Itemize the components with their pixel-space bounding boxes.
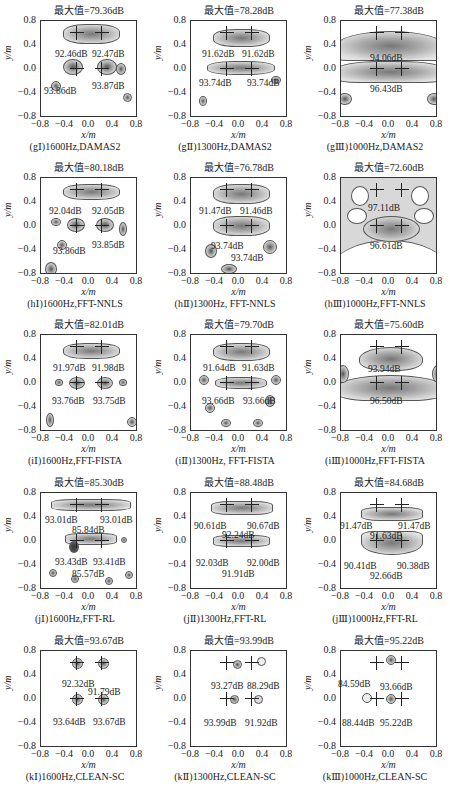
x-axis-label: x/m (340, 443, 437, 454)
ytick: −0.4 (156, 559, 186, 569)
ytick: −0.4 (306, 87, 336, 97)
peak-label: 84.59dB (338, 679, 370, 689)
panel-title: 最大值=93.67dB (40, 632, 138, 647)
xtick: 0.8 (421, 276, 450, 286)
xtick: 0.8 (271, 119, 301, 129)
y-axis-label: y/m (2, 518, 13, 532)
ytick: 0.0 (156, 63, 186, 73)
panel-caption: (jⅡ)1300Hz,FFT-RL (150, 613, 300, 624)
peak-label: 91.97dB (53, 363, 85, 373)
true-source-marker (70, 219, 84, 233)
ytick: 0.0 (306, 377, 336, 387)
panel-title: 最大值=85.30dB (40, 474, 138, 489)
peak-label: 96.61dB (370, 241, 402, 251)
peak-label: 91.92dB (245, 718, 277, 728)
peak-label: 93.74dB (231, 253, 263, 263)
peak-label: 93.87dB (92, 81, 124, 91)
true-source-marker (245, 183, 259, 197)
panel-gII: 最大值=78.28dB 91.62dB 91.62dB 93.74dB 93.7… (150, 0, 300, 157)
sidelobe-blob (432, 365, 437, 383)
true-source-marker (70, 376, 84, 390)
true-source-marker (395, 498, 409, 512)
sidelobe-blob (271, 375, 281, 385)
panel-caption: (gⅡ)1300Hz,DAMAS2 (150, 141, 300, 152)
sidelobe-blob (253, 419, 263, 427)
low-region (411, 186, 429, 206)
panel-gI: 最大值=79.36dB 92.46dB 92.47dB 93.86dB 93.8… (0, 0, 150, 157)
true-source-marker (220, 62, 234, 76)
true-source-marker (220, 376, 234, 390)
panel-jI: 最大值=85.30dB 93.01dB 93.01dB 85.84dB 93.4… (0, 472, 150, 629)
panel-jIII: 最大值=84.68dB 91.47dB 91.47dB 91.63dB 90.4… (300, 472, 450, 629)
peak-label: 91.79dB (88, 687, 120, 697)
panel-title: 最大值=80.18dB (40, 159, 138, 174)
x-axis-label: x/m (40, 443, 137, 454)
panel-caption: (gⅢ)1000Hz,DAMAS2 (300, 141, 450, 152)
panel-caption: (kⅠ)1600Hz,CLEAN-SC (0, 771, 150, 782)
panel-caption: (jⅢ)1000Hz,FFT-RL (300, 613, 450, 624)
peak-label: 91.47dB (398, 521, 430, 531)
ytick: 0.8 (6, 15, 36, 25)
peak-label: 90.38dB (397, 561, 429, 571)
peak-label: 93.74dB (199, 78, 231, 88)
panel-title: 最大值=84.68dB (340, 474, 438, 489)
true-source-marker (70, 534, 84, 548)
sidelobe-blob (49, 569, 57, 577)
peak-label: 93.66dB (380, 682, 412, 692)
peak-label: 93.86dB (44, 86, 76, 96)
ytick: 0.8 (6, 487, 36, 497)
true-source-marker (220, 656, 234, 670)
peak-label: 93.75dB (93, 396, 125, 406)
true-source-marker (70, 340, 84, 354)
peak-label: 85.84dB (72, 525, 104, 535)
ytick: −0.4 (6, 87, 36, 97)
panel-hII: 最大值=76.78dB 91.47dB 91.46dB 93.74dB 93.7… (150, 157, 300, 314)
y-axis-label: y/m (152, 518, 163, 532)
true-source-marker (395, 62, 409, 76)
panel-caption: (kⅡ)1300Hz,CLEAN-SC (150, 771, 300, 782)
x-axis-label: x/m (340, 286, 437, 297)
peak-label: 85.57dB (72, 569, 104, 579)
true-source-marker (220, 183, 234, 197)
peak-label: 93.86dB (53, 246, 85, 256)
ytick: 0.8 (306, 487, 336, 497)
y-axis-label: y/m (302, 676, 313, 690)
peak-label: 93.94dB (368, 364, 400, 374)
true-source-marker (245, 219, 259, 233)
xtick: 0.8 (421, 591, 450, 601)
ytick: −0.4 (156, 87, 186, 97)
true-source-marker (370, 692, 384, 706)
peak-label: 91.62dB (242, 49, 274, 59)
xtick: 0.8 (271, 749, 301, 759)
ytick: −0.4 (306, 717, 336, 727)
panel-caption: (iⅡ)1300Hz, FFT-FISTA (150, 455, 300, 466)
true-source-marker (95, 62, 109, 76)
peak-label: 92.00dB (247, 558, 279, 568)
panel-title: 最大值=79.36dB (40, 2, 138, 17)
panel-kII: 最大值=93.99dB 93.27dB 88.29dB 93.99dB 91.9… (150, 630, 300, 787)
sidelobe-blob (340, 93, 352, 105)
plot-area (340, 177, 437, 274)
panel-caption: (hⅡ)1300Hz, FFT-NNLS (150, 298, 300, 309)
true-source-marker (245, 340, 259, 354)
sidelobe-blob (46, 413, 54, 427)
peak-label: 92.24dB (222, 530, 254, 540)
sidelobe-blob (116, 63, 126, 75)
peak-label: 93.76dB (52, 396, 84, 406)
ytick: −0.4 (156, 401, 186, 411)
true-source-marker (95, 183, 109, 197)
peak-label: 91.47dB (340, 521, 372, 531)
peak-label: 91.47dB (199, 206, 231, 216)
y-axis-label: y/m (152, 360, 163, 374)
ytick: 0.0 (6, 63, 36, 73)
true-source-marker (95, 340, 109, 354)
peak-label: 90.41dB (344, 561, 376, 571)
panel-title: 最大值=95.22dB (340, 632, 438, 647)
ytick: 0.0 (156, 377, 186, 387)
plot-area (190, 20, 287, 117)
sidelobe-blob (263, 240, 277, 254)
sidelobe-blob (119, 222, 127, 236)
x-axis-label: x/m (190, 129, 287, 140)
true-source-marker (70, 183, 84, 197)
xtick: 0.8 (421, 749, 450, 759)
